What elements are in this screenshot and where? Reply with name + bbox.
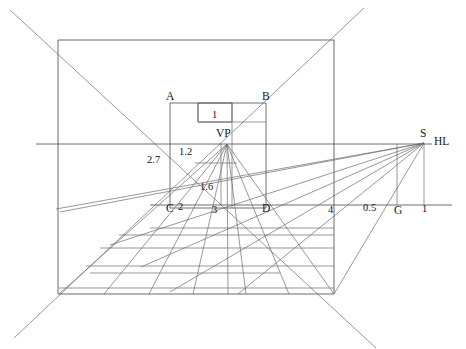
measure-label-one-point-6: 1.6 (200, 181, 213, 192)
vp-ray-5 (227, 144, 228, 294)
point-label-C: C (166, 202, 174, 214)
measure-label-four: 4 (328, 204, 334, 215)
diag-tl-br (10, 10, 376, 348)
outer-frame (58, 40, 334, 294)
measure-label-three: 3 (212, 204, 217, 215)
measure-label-one-point-2: 1.2 (179, 146, 192, 157)
measure-label-zero-five: 0.5 (363, 202, 376, 213)
point-label-D: D (262, 202, 270, 214)
measuring-verticals (397, 143, 424, 205)
point-label-S: S (420, 127, 426, 139)
measure-label-one-right: 1 (422, 203, 427, 214)
point-label-HL: HL (434, 135, 449, 147)
point-label-VP: VP (216, 127, 231, 139)
inner-subdivision-lines (195, 103, 266, 208)
vp-ray-3 (149, 144, 227, 294)
station-point-ray-fan (56, 143, 424, 294)
vp-ray-2 (104, 144, 227, 294)
s-ray-5 (170, 143, 424, 292)
outer-frame-rectangle (58, 40, 334, 294)
vp-ray-4 (193, 144, 227, 294)
s-ray-7 (334, 143, 424, 294)
perspective-diagram-canvas: ABCDVPSHLG 12.71.21.62340.51 (0, 0, 466, 349)
measure-label-one-top: 1 (212, 109, 217, 120)
s-ray-1 (56, 143, 424, 209)
point-label-G: G (394, 204, 402, 216)
vp-ray-1 (59, 144, 227, 294)
point-label-B: B (262, 90, 270, 102)
point-label-A: A (166, 90, 175, 102)
measure-label-two-point-7: 2.7 (147, 154, 160, 165)
measure-label-two-c: 2 (178, 201, 183, 212)
long-diagonal-guides (10, 8, 376, 348)
measurement-label-group: 12.71.21.62340.51 (147, 109, 427, 215)
perspective-drawing: ABCDVPSHLG 12.71.21.62340.51 (0, 0, 466, 349)
